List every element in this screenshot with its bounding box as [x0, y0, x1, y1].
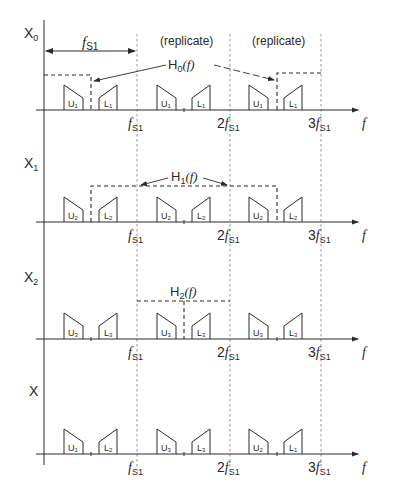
svg-text:U3: U3	[68, 328, 79, 338]
filter-label-h2: H2(f)	[170, 284, 197, 301]
signal-label-x: X	[29, 383, 39, 399]
signal-label-x2: X2	[24, 269, 38, 287]
svg-text:L2: L2	[104, 211, 113, 221]
svg-text:f: f	[362, 228, 368, 243]
svg-text:2fS1: 2fS1	[217, 227, 240, 245]
svg-text:U2: U2	[68, 211, 79, 221]
row-x2: X2 H2(f) U3 L3 U3 L3 U3 L3 fS1 2fS1 3fS1…	[24, 269, 368, 362]
row-x1: X1 H1(f) U2 L2 U2 L2 U2 L2 fS1 2fS1 3fS1…	[24, 155, 368, 245]
signal-label-x0: X0	[24, 25, 38, 43]
svg-text:f: f	[362, 460, 368, 475]
top-annotations: fS1 (replicate) (replicate)	[46, 34, 305, 52]
svg-text:U1: U1	[161, 99, 172, 109]
svg-text:3fS1: 3fS1	[308, 227, 331, 245]
spectrum-diagram: fS1 (replicate) (replicate) X0 H0(f) U1 …	[0, 0, 405, 498]
svg-text:L2: L2	[289, 211, 298, 221]
spectrum-blocks	[64, 85, 302, 110]
svg-text:U1: U1	[253, 99, 264, 109]
filter-label-h0: H0(f)	[168, 57, 195, 74]
svg-text:U3: U3	[253, 328, 264, 338]
svg-text:L1: L1	[197, 99, 206, 109]
svg-text:U1: U1	[68, 99, 79, 109]
svg-text:f: f	[362, 345, 368, 360]
svg-text:U3: U3	[161, 328, 172, 338]
svg-text:fS1: fS1	[128, 228, 143, 245]
replicate-label-1: (replicate)	[160, 34, 213, 48]
svg-text:L1: L1	[289, 99, 298, 109]
svg-text:L2: L2	[197, 211, 206, 221]
svg-text:U1: U1	[68, 443, 79, 453]
svg-text:L3: L3	[289, 328, 298, 338]
svg-text:3fS1: 3fS1	[308, 115, 331, 133]
svg-text:U3: U3	[161, 443, 172, 453]
svg-text:3fS1: 3fS1	[308, 459, 331, 477]
svg-text:2fS1: 2fS1	[217, 344, 240, 362]
svg-text:fS1: fS1	[128, 345, 143, 362]
svg-text:3fS1: 3fS1	[308, 344, 331, 362]
svg-text:L2: L2	[104, 443, 113, 453]
svg-text:fS1: fS1	[128, 460, 143, 477]
replicate-label-2: (replicate)	[252, 34, 305, 48]
svg-text:2fS1: 2fS1	[217, 115, 240, 133]
svg-text:L1: L1	[289, 443, 298, 453]
filter-label-h1: H1(f)	[171, 169, 198, 186]
svg-text:fS1: fS1	[128, 116, 143, 133]
svg-text:U2: U2	[253, 211, 264, 221]
row-x: X U1 L2 U3 L3 U2 L1 fS1 2fS1 3fS1 f	[29, 383, 368, 477]
signal-label-x1: X1	[24, 155, 38, 173]
svg-text:L3: L3	[104, 328, 113, 338]
svg-text:U2: U2	[253, 443, 264, 453]
svg-text:L3: L3	[197, 443, 206, 453]
svg-text:2fS1: 2fS1	[217, 459, 240, 477]
svg-text:f: f	[362, 116, 368, 131]
svg-text:L1: L1	[104, 99, 113, 109]
svg-text:U2: U2	[161, 211, 172, 221]
svg-text:fS1: fS1	[82, 34, 99, 52]
svg-text:L3: L3	[197, 328, 206, 338]
